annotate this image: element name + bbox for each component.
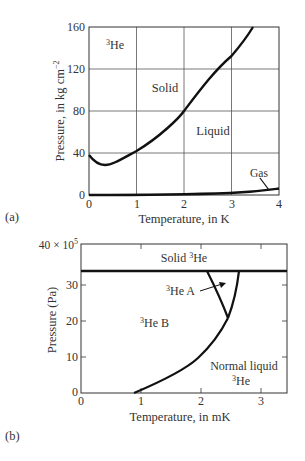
panel-a-ytick: 80 — [73, 104, 85, 118]
panel-a-ytick: 40 — [73, 146, 85, 160]
panel-a-ytick: 120 — [67, 62, 85, 76]
arrowhead-icon — [219, 282, 226, 288]
panel-a-gas-pointer — [260, 178, 269, 190]
panel-b-xlabel: Temperature, in mK — [130, 410, 231, 424]
panel-b-xtick: 3 — [258, 394, 264, 408]
panel-a-xtick: 2 — [181, 197, 187, 211]
panel-b-label: (b) — [5, 429, 20, 443]
panel-a-xlabel: Temperature, in K — [138, 212, 229, 226]
panel-b-normal-liquid-label: Normal liquid — [210, 359, 278, 373]
panel-a-label: (a) — [5, 210, 19, 224]
panel-b-a-pointer — [200, 284, 222, 291]
phase-diagram-figure: 160 120 80 40 0 0 1 2 3 4 Temperature, i… — [0, 0, 305, 461]
panel-b-a-normal-boundary — [228, 271, 239, 318]
panel-b-a-phase-label: 3He A — [166, 284, 195, 298]
panel-a-ytick: 0 — [79, 188, 85, 202]
panel-b-ytick: 20 — [66, 314, 78, 328]
panel-b-solid-label: Solid 3He — [161, 251, 207, 265]
panel-a-xtick: 1 — [134, 197, 140, 211]
panel-b-a-b-boundary — [207, 271, 228, 318]
panel-a-xtick: 4 — [276, 197, 282, 211]
panel-b-b-phase-label: 3He B — [140, 316, 169, 330]
panel-a-solid-label: Solid — [152, 81, 179, 95]
panel-b-ytick: 30 — [66, 278, 78, 292]
panel-b-ytick: 10 — [66, 350, 78, 364]
panel-b-xtick: 0 — [78, 394, 84, 408]
panel-a-annotation-3he: 3He — [106, 38, 124, 52]
panel-b-ytick-max: 40 × 105 — [39, 237, 78, 251]
panel-a-liquid-label: Liquid — [196, 124, 230, 138]
panel-a-xtick: 0 — [86, 197, 92, 211]
panel-a-gas-label: Gas — [250, 167, 268, 179]
panel-b: 40 × 105 30 20 10 0 0 1 2 3 Temperature,… — [5, 237, 287, 443]
panel-b-ylabel: Pressure (Pa) — [45, 287, 59, 353]
panel-a: 160 120 80 40 0 0 1 2 3 4 Temperature, i… — [5, 20, 282, 226]
panel-a-ylabel: Pressure, in kg cm−2 — [52, 61, 67, 162]
panel-b-normal-liquid-he-label: 3He — [232, 374, 250, 388]
panel-a-ytick: 160 — [67, 20, 85, 34]
panel-b-xtick: 1 — [138, 394, 144, 408]
panel-a-xtick: 3 — [229, 197, 235, 211]
panel-b-xtick: 2 — [198, 394, 204, 408]
